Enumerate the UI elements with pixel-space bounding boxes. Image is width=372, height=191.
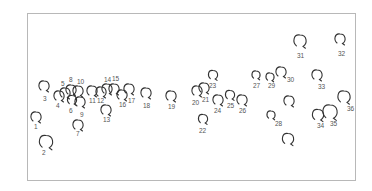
glyph-label: 7 bbox=[76, 130, 80, 137]
glyph-label: 34 bbox=[317, 122, 325, 129]
glyph-label: 27 bbox=[253, 82, 261, 89]
loop-glyph-icon bbox=[39, 81, 49, 92]
glyph-item: 19 bbox=[166, 91, 176, 110]
glyph-label: 12 bbox=[97, 97, 105, 104]
glyph-label: 1 bbox=[34, 123, 38, 130]
glyph-item: 4 bbox=[54, 91, 64, 109]
glyph-item: 35 bbox=[323, 105, 338, 127]
glyph-label: 15 bbox=[112, 75, 120, 82]
loop-glyph-icon bbox=[39, 135, 52, 149]
glyph-label: 28 bbox=[275, 120, 283, 127]
glyph-label: 26 bbox=[239, 107, 247, 114]
glyph-label: 16 bbox=[119, 101, 127, 108]
glyph-label: 24 bbox=[214, 107, 222, 114]
glyph-item: 1 bbox=[31, 112, 41, 130]
glyph-item: 23 bbox=[208, 70, 217, 89]
loop-glyph-icon bbox=[294, 35, 306, 48]
loop-glyph-icon bbox=[252, 71, 260, 80]
glyph-label: 2 bbox=[42, 149, 46, 156]
glyph-label: 9 bbox=[80, 111, 84, 118]
glyph-label: 23 bbox=[209, 82, 217, 89]
glyph-item: 7 bbox=[73, 120, 83, 137]
glyph-unlabeled bbox=[282, 133, 293, 145]
glyph-item: 3 bbox=[39, 81, 49, 102]
glyph-label: 8 bbox=[69, 76, 73, 83]
glyph-label: 3 bbox=[43, 95, 47, 102]
glyph-label: 33 bbox=[318, 83, 326, 90]
glyph-label: 14 bbox=[104, 76, 112, 83]
loop-glyph-icon bbox=[166, 91, 176, 102]
glyph-item: 30 bbox=[276, 67, 295, 83]
loop-glyph-icon bbox=[198, 114, 207, 124]
loop-glyph-icon bbox=[31, 112, 41, 123]
loop-glyph-icon bbox=[213, 95, 223, 106]
glyph-unlabeled bbox=[284, 96, 294, 107]
loop-glyph-icon bbox=[199, 83, 209, 94]
loop-glyph-icon bbox=[267, 111, 275, 120]
loop-glyph-icon bbox=[266, 73, 274, 82]
loop-glyph-icon bbox=[237, 95, 247, 106]
glyph-label: 5 bbox=[61, 80, 65, 87]
glyph-label: 17 bbox=[128, 97, 136, 104]
glyph-label: 31 bbox=[297, 52, 305, 59]
glyph-label: 36 bbox=[347, 105, 355, 112]
loop-glyph-icon bbox=[312, 109, 323, 121]
glyph-item: 2 bbox=[39, 135, 52, 156]
loop-glyph-icon bbox=[282, 133, 293, 145]
glyph-item: 22 bbox=[198, 114, 207, 134]
glyph-item: 26 bbox=[237, 95, 247, 114]
loop-glyph-icon bbox=[141, 88, 151, 99]
glyph-item: 31 bbox=[294, 35, 306, 59]
glyph-label: 6 bbox=[69, 107, 73, 114]
glyph-label: 13 bbox=[103, 116, 111, 123]
glyph-label: 30 bbox=[287, 76, 295, 83]
glyph-item: 36 bbox=[338, 91, 355, 112]
glyph-label: 21 bbox=[202, 96, 210, 103]
loop-glyph-icon bbox=[323, 105, 337, 121]
glyph-label: 18 bbox=[143, 102, 151, 109]
glyph-label: 25 bbox=[227, 102, 235, 109]
glyph-item: 33 bbox=[312, 70, 326, 90]
loop-glyph-icon bbox=[284, 96, 294, 107]
loop-glyph-icon bbox=[54, 91, 64, 102]
glyph-item: 13 bbox=[101, 105, 111, 123]
glyph-item: 11 bbox=[87, 86, 97, 104]
loop-glyph-icon bbox=[312, 70, 322, 81]
glyph-label: 35 bbox=[330, 120, 338, 127]
shape-canvas: 1234567891011121314151617181920212223242… bbox=[0, 0, 372, 191]
loop-glyph-icon bbox=[335, 34, 345, 45]
glyph-item: 20 bbox=[192, 86, 202, 106]
glyph-label: 11 bbox=[89, 97, 96, 104]
loop-glyph-icon bbox=[208, 70, 217, 80]
glyph-label: 20 bbox=[192, 99, 200, 106]
glyph-label: 4 bbox=[56, 102, 60, 109]
glyph-item: 32 bbox=[335, 34, 346, 57]
glyph-label: 10 bbox=[77, 78, 85, 85]
glyph-label: 22 bbox=[199, 127, 207, 134]
glyph-item: 27 bbox=[252, 71, 261, 89]
loop-glyph-icon bbox=[60, 88, 70, 99]
glyph-label: 32 bbox=[338, 50, 346, 57]
glyph-label: 29 bbox=[268, 82, 276, 89]
glyph-item: 24 bbox=[213, 95, 223, 114]
glyph-item: 28 bbox=[267, 111, 283, 127]
loop-glyph-icon bbox=[225, 90, 234, 100]
loop-glyph-icon bbox=[276, 67, 286, 78]
glyph-item: 25 bbox=[225, 90, 234, 109]
glyph-label: 19 bbox=[168, 103, 176, 110]
loop-glyph-icon bbox=[124, 84, 134, 95]
glyph-item: 10 bbox=[73, 78, 85, 97]
loop-glyph-icon bbox=[101, 105, 111, 116]
glyph-item: 18 bbox=[141, 88, 151, 109]
glyph-item: 29 bbox=[266, 73, 276, 89]
loop-glyph-icon bbox=[338, 91, 350, 104]
